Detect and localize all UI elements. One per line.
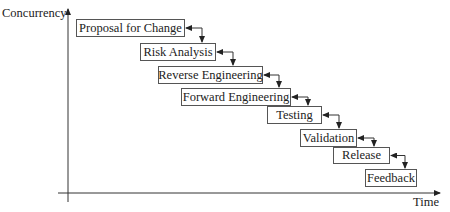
concurrency-diagram: Concurrency Time Proposal for Change Ris… <box>0 0 450 212</box>
stage-reverse-engineering: Reverse Engineering <box>158 66 263 84</box>
stage-forward-engineering: Forward Engineering <box>181 88 291 106</box>
stage-feedback: Feedback <box>365 169 417 187</box>
stage-proposal-for-change: Proposal for Change <box>76 19 185 37</box>
stage-label: Risk Analysis <box>143 45 212 60</box>
stage-label: Reverse Engineering <box>158 68 262 83</box>
x-axis-label: Time <box>413 195 439 210</box>
stage-label: Validation <box>303 131 354 146</box>
stage-label: Feedback <box>367 171 415 186</box>
stage-risk-analysis: Risk Analysis <box>140 43 216 61</box>
stage-validation: Validation <box>300 129 357 147</box>
stage-label: Proposal for Change <box>79 21 182 36</box>
stage-label: Release <box>342 148 381 163</box>
stage-testing: Testing <box>267 106 322 124</box>
stage-label: Forward Engineering <box>183 90 290 105</box>
stage-release: Release <box>333 147 390 164</box>
y-axis-label: Concurrency <box>2 6 67 21</box>
stage-label: Testing <box>276 108 313 123</box>
